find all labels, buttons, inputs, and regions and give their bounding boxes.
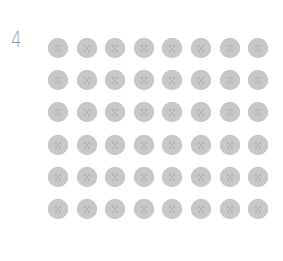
cookie-icon [48,135,68,155]
cookie-icon [48,38,68,58]
cookie-icon [134,167,154,187]
cookie-icon [248,38,268,58]
cookie-icon [48,199,68,219]
cookie-icon [105,167,125,187]
cookie-icon [248,199,268,219]
cookie-icon [48,70,68,90]
cookie-icon [105,38,125,58]
cookie-icon [134,70,154,90]
cookie-icon [220,70,240,90]
cookie-icon [77,167,97,187]
cookie-icon [220,167,240,187]
cookie-icon [48,167,68,187]
cookie-icon [105,135,125,155]
cookie-icon [77,70,97,90]
cookie-icon [77,102,97,122]
cookie-icon [191,135,211,155]
count-label: 4 [11,29,22,51]
cookie-icon [220,199,240,219]
cookie-icon [105,102,125,122]
cookie-icon [248,102,268,122]
cookie-grid [48,38,268,219]
cookie-icon [162,135,182,155]
cookie-icon [191,38,211,58]
cookie-icon [162,199,182,219]
cookie-icon [105,70,125,90]
cookie-icon [191,102,211,122]
cookie-icon [248,70,268,90]
cookie-icon [77,135,97,155]
cookie-icon [162,38,182,58]
cookie-icon [105,199,125,219]
cookie-icon [191,167,211,187]
cookie-icon [77,199,97,219]
cookie-icon [220,135,240,155]
cookie-icon [220,102,240,122]
cookie-icon [191,199,211,219]
cookie-icon [191,70,211,90]
cookie-icon [162,102,182,122]
cookie-icon [162,167,182,187]
cookie-icon [134,38,154,58]
cookie-icon [248,167,268,187]
cookie-icon [220,38,240,58]
cookie-icon [134,199,154,219]
cookie-icon [48,102,68,122]
cookie-icon [134,102,154,122]
cookie-icon [248,135,268,155]
cookie-icon [134,135,154,155]
cookie-icon [162,70,182,90]
cookie-icon [77,38,97,58]
